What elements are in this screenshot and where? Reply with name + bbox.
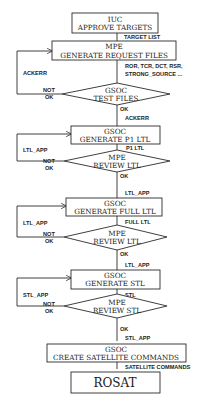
edge-label-p1-ltl: P1 LTL	[126, 145, 145, 151]
condition-ok: OK	[45, 308, 53, 314]
edge-label-ltl-app-loop: LTL_APP	[23, 220, 48, 226]
node-create-satellite-commands: GSOC CREATE SATELLITE COMMANDS	[47, 344, 186, 362]
edge-label-full-ltl: FULL LTL	[125, 219, 151, 225]
condition-ok: OK	[120, 326, 128, 332]
node-label: CREATE SATELLITE COMMANDS	[53, 353, 179, 362]
condition-ok: OK	[45, 94, 53, 100]
node-label: GENERATE P1 LTL	[80, 135, 151, 144]
edge-label-request-files-1: ROR, TCR, DCT, RSR,	[125, 63, 183, 69]
node-label: TEST FILES	[94, 94, 139, 103]
condition-ok: OK	[45, 165, 53, 171]
edge-label-satellite-commands: SATELLITE COMMANDS	[125, 364, 190, 370]
decision-review-stl: MPE REVIEW STL	[64, 294, 167, 318]
edge-label-ackerr: ACKERR	[125, 115, 149, 121]
flowchart: IUC APPROVE TARGETS TARGET LIST MPE GENE…	[0, 0, 220, 408]
node-label: ROSAT	[93, 376, 136, 390]
node-generate-request-files: MPE GENERATE REQUEST FILES	[52, 41, 176, 60]
node-label: GENERATE REQUEST FILES	[60, 51, 168, 60]
node-label: GENERATE FULL LTL	[74, 207, 156, 216]
condition-ok: OK	[120, 106, 128, 112]
node-label: REVIEW LTL	[93, 161, 141, 170]
condition-not: NOT	[43, 231, 55, 237]
condition-not: NOT	[43, 301, 55, 307]
edge-label-ltl-app: LTL_APP	[125, 262, 150, 268]
node-generate-p1-ltl: GSOC GENERATE P1 LTL	[71, 126, 160, 144]
node-label: REVIEW STL	[93, 306, 141, 315]
node-label: APPROVE TARGETS	[77, 23, 153, 32]
edge-label-ltl-app: LTL_APP	[125, 190, 150, 196]
node-rosat: ROSAT	[71, 372, 160, 393]
condition-not: NOT	[43, 158, 55, 164]
edge-label-stl-app-loop: STL_APP	[23, 292, 48, 298]
edge-label-request-files-2: STRONG_SOURCE ...	[125, 71, 183, 77]
node-approve-targets: IUC APPROVE TARGETS	[72, 13, 158, 33]
decision-review-full-ltl: MPE REVIEW LTL	[64, 225, 167, 250]
node-generate-stl: GSOC GENERATE STL	[71, 270, 160, 289]
edge-label-ackerr-loop: ACKERR	[23, 70, 47, 76]
node-generate-full-ltl: GSOC GENERATE FULL LTL	[66, 198, 162, 216]
edge-label-stl-app: STL_APP	[125, 335, 150, 341]
decision-test-files: GSOC TEST FILES	[62, 83, 170, 105]
condition-ok: OK	[45, 238, 53, 244]
edge-label-ltl-app-loop: LTL_APP	[23, 147, 48, 153]
decision-review-p1-ltl: MPE REVIEW LTL	[64, 150, 170, 172]
node-label: REVIEW LTL	[93, 237, 141, 246]
condition-not: NOT	[43, 87, 55, 93]
condition-ok: OK	[120, 173, 128, 179]
edge-label-target-list: TARGET LIST	[124, 34, 161, 40]
condition-ok: OK	[120, 251, 128, 257]
node-label: GENERATE STL	[85, 279, 145, 288]
